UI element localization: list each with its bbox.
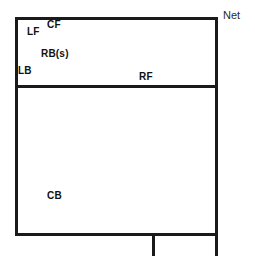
position-label-lb: LB [18, 65, 32, 76]
position-label-rbs: RB(s) [41, 48, 69, 59]
right-sideline-extension [215, 236, 218, 256]
position-label-rf: RF [139, 71, 153, 82]
center-mark-stub [152, 236, 155, 256]
court-position-diagram: LF CF RB(s) LB RF CB Net [0, 0, 255, 265]
attack-line [15, 85, 218, 88]
position-label-cb: CB [47, 190, 62, 201]
net-label: Net [223, 9, 240, 21]
position-label-lf: LF [27, 26, 40, 37]
position-label-cf: CF [47, 19, 61, 30]
